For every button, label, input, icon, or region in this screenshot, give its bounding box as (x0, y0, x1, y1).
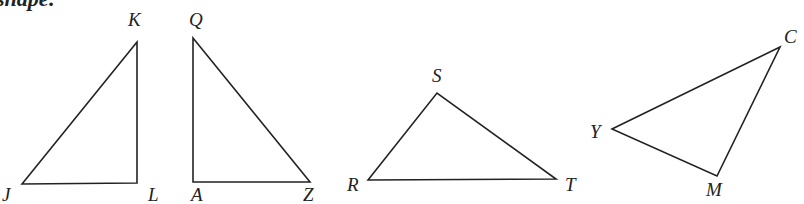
triangle-ycm: C Y M (590, 26, 797, 200)
triangle-qaz: Q A Z (189, 9, 314, 204)
vertex-label-t: T (565, 174, 577, 195)
triangle-rst: S R T (346, 65, 577, 195)
vertex-label-r: R (346, 174, 359, 195)
vertex-label-m: M (705, 179, 723, 200)
vertex-label-l: L (147, 184, 159, 204)
triangle-jkl: J K L (2, 9, 159, 204)
vertex-label-y: Y (590, 121, 603, 142)
vertex-label-c: C (784, 26, 797, 47)
vertex-label-a: A (189, 184, 203, 204)
vertex-label-k: K (127, 9, 142, 30)
vertex-label-j: J (2, 184, 12, 204)
vertex-label-q: Q (189, 9, 203, 30)
vertex-label-z: Z (303, 184, 314, 204)
vertex-label-s: S (432, 65, 442, 86)
triangle-diagram: J K L Q A Z S R T C Y M (0, 0, 804, 204)
